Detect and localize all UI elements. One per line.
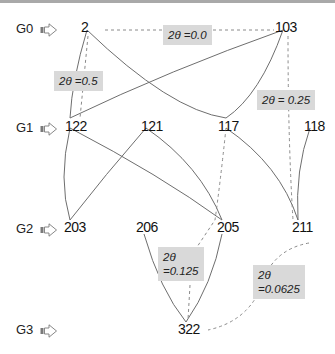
row-label-g2: G2	[16, 221, 33, 236]
edge-121-203	[70, 128, 146, 220]
node-103: 103	[275, 19, 297, 35]
node-206: 206	[136, 219, 158, 235]
edge-117-211	[226, 128, 298, 220]
node-117: 117	[218, 118, 239, 134]
angle-label-0-0625-line1: 2θ	[258, 268, 300, 282]
node-322: 322	[178, 321, 200, 337]
angle-label-0-0: 2θ =0.0	[163, 25, 212, 45]
edge-121-205	[146, 128, 222, 220]
angle-label-0-0625-line2: =0.0625	[258, 282, 300, 296]
dashed-205-322	[188, 285, 190, 320]
angle-label-0-125-line2: =0.125	[163, 264, 199, 278]
node-118: 118	[304, 118, 325, 134]
edge-122-203	[64, 128, 70, 220]
node-211: 211	[292, 219, 313, 235]
dashed-103-211	[288, 36, 293, 220]
right-arrow-icon	[40, 324, 58, 338]
node-203: 203	[64, 219, 86, 235]
right-arrow-icon	[40, 223, 58, 237]
angle-label-0-125: 2θ =0.125	[158, 247, 204, 281]
angle-label-0-5: 2θ =0.5	[54, 71, 103, 91]
node-122: 122	[65, 118, 87, 134]
row-label-g1: G1	[16, 120, 33, 135]
node-2: 2	[81, 19, 88, 35]
angle-label-0-25: 2θ = 0.25	[257, 90, 315, 110]
edge-118-211	[298, 128, 311, 220]
edge-layer	[0, 0, 335, 354]
angle-label-0-125-line1: 2θ	[163, 250, 199, 264]
right-arrow-icon	[40, 122, 58, 136]
node-121: 121	[141, 118, 163, 134]
angle-label-0-0625: 2θ =0.0625	[253, 265, 305, 299]
row-label-g3: G3	[16, 322, 33, 337]
right-arrow-icon	[40, 23, 58, 37]
node-205: 205	[217, 219, 239, 235]
row-label-g0: G0	[16, 21, 33, 36]
edge-122-205	[70, 128, 222, 220]
